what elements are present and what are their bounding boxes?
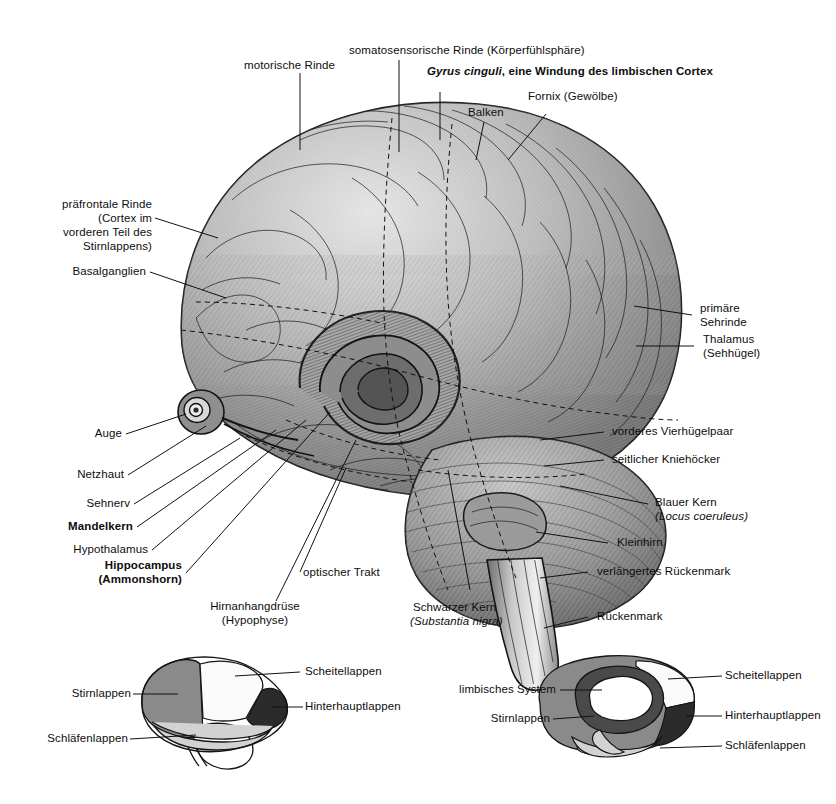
label-gyrus-cinguli: Gyrus cinguli, eine Windung des limbisch… (427, 65, 713, 79)
label-gyrus-cinguli-description: , eine Windung des limbischen Cortex (502, 65, 713, 77)
label-lateral-stirnlappen: Stirnlappen (0, 687, 131, 701)
label-praefrontale-rinde-line3: vorderen Teil des (0, 226, 152, 240)
label-hippocampus-line2: (Ammonshorn) (0, 573, 182, 587)
label-kleinhirn: Kleinhirn (617, 536, 663, 550)
label-auge: Auge (0, 427, 122, 441)
label-optischer-trakt: optischer Trakt (303, 566, 380, 580)
label-verlaengertes-rueckenmark: verlängertes Rückenmark (597, 565, 730, 579)
label-medial-hinterhauptlappen: Hinterhauptlappen (725, 709, 821, 723)
label-rueckenmark: Rückenmark (597, 610, 663, 624)
main-brain-illustration (126, 60, 700, 690)
label-praefrontale-rinde-line1: präfrontale Rinde (0, 198, 152, 212)
label-primaere-sehrinde-line2: Sehrinde (700, 316, 747, 330)
label-sehnerv: Sehnerv (0, 497, 130, 511)
label-somatosensorische-rinde: somatosensorische Rinde (Körperfühlsphär… (349, 44, 585, 58)
lateral-lobe-view (130, 657, 303, 769)
label-schwarzer-kern-line2: (Substantia nigra) (410, 615, 503, 629)
label-netzhaut: Netzhaut (0, 468, 124, 482)
label-vorderes-vierhuegelpaar: vorderes Vierhügelpaar (612, 425, 734, 439)
label-hippocampus-line1: Hippocampus (0, 559, 182, 573)
label-mandelkern: Mandelkern (0, 520, 133, 534)
label-hirnanhangdruese-line1: Hirnanhangdrüse (190, 600, 320, 614)
label-seitlicher-kniehoecker: seitlicher Kniehöcker (612, 453, 720, 467)
label-medial-schlaefenlappen: Schläfenlappen (725, 739, 806, 753)
label-hirnanhangdruese-line2: (Hypophyse) (190, 614, 320, 628)
label-medial-limbisches-system: limbisches System (420, 683, 556, 697)
label-lateral-scheitellappen: Scheitellappen (305, 665, 382, 679)
label-schwarzer-kern-line1: Schwarzer Kern (413, 601, 496, 615)
medial-lobe-view (539, 656, 722, 757)
label-medial-stirnlappen: Stirnlappen (420, 712, 550, 726)
label-lateral-hinterhauptlappen: Hinterhauptlappen (305, 700, 401, 714)
label-thalamus-line2: (Sehhügel) (703, 347, 760, 361)
figure-page: motorische Rinde somatosensorische Rinde… (0, 0, 836, 804)
label-lateral-schlaefenlappen: Schläfenlappen (0, 732, 128, 746)
label-medial-scheitellappen: Scheitellappen (725, 669, 802, 683)
label-basalganglien: Basalganglien (0, 265, 146, 279)
label-primaere-sehrinde-line1: primäre (700, 302, 740, 316)
label-praefrontale-rinde-line4: Stirnlappens) (0, 240, 152, 254)
label-blauer-kern-line1: Blauer Kern (655, 496, 717, 510)
label-gyrus-cinguli-latin: Gyrus cinguli (427, 65, 502, 77)
label-praefrontale-rinde-line2: (Cortex im (0, 212, 152, 226)
label-hypothalamus: Hypothalamus (0, 543, 148, 557)
medial-corpus-callosum (589, 676, 652, 720)
label-blauer-kern-line2: (Locus coeruleus) (655, 510, 748, 524)
label-fornix: Fornix (Gewölbe) (528, 90, 618, 104)
brain-diagram-svg (0, 0, 836, 804)
label-thalamus-line1: Thalamus (703, 333, 754, 347)
label-motorische-rinde: motorische Rinde (244, 59, 335, 73)
label-balken: Balken (468, 106, 504, 120)
